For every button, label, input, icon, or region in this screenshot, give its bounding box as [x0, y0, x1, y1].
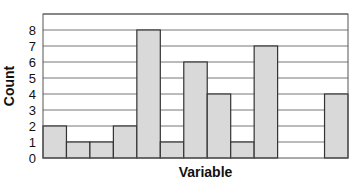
y-tick-label: 8: [29, 23, 36, 38]
bar: [231, 142, 254, 158]
y-axis-label: Count: [1, 65, 17, 106]
y-tick-label: 5: [29, 71, 36, 86]
bar: [43, 126, 66, 158]
y-tick-label: 1: [29, 135, 36, 150]
y-tick-label: 0: [29, 151, 36, 166]
y-tick-label: 4: [29, 87, 36, 102]
bar: [207, 94, 230, 158]
bar: [254, 46, 277, 158]
bar: [66, 142, 89, 158]
bar: [137, 30, 160, 158]
y-tick-label: 7: [29, 39, 36, 54]
histogram-chart: 012345678 Count Variable: [0, 0, 352, 183]
bar: [160, 142, 183, 158]
y-axis-ticks: 012345678: [29, 23, 36, 166]
bar: [113, 126, 136, 158]
y-tick-label: 2: [29, 119, 36, 134]
y-tick-label: 6: [29, 55, 36, 70]
x-axis-label: Variable: [179, 164, 233, 180]
bar: [184, 62, 207, 158]
bar: [325, 94, 348, 158]
bar: [90, 142, 113, 158]
y-tick-label: 3: [29, 103, 36, 118]
